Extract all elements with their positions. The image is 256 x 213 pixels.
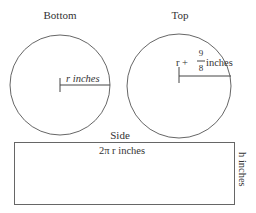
top-fraction-denominator: 8 [199, 63, 204, 73]
top-circle [127, 34, 231, 138]
bottom-radius-label: r inches [66, 73, 100, 84]
cylinder-net-diagram: Bottom r inches Top r + 9 8 inches Side … [0, 0, 256, 213]
top-radius-label-suffix: inches [206, 57, 233, 68]
side-rectangle-group: Side 2π r inches h inches [15, 129, 249, 205]
top-circle-group: Top r + 9 8 inches [127, 9, 233, 138]
bottom-circle-group: Bottom r inches [10, 9, 110, 135]
bottom-radius-label-text: r inches [66, 73, 100, 84]
top-radius-label-prefix: r + [176, 57, 188, 68]
side-width-label: 2π r inches [99, 145, 145, 156]
side-height-label: h inches [237, 152, 248, 187]
top-fraction-numerator: 9 [199, 48, 204, 58]
bottom-title: Bottom [43, 9, 76, 21]
side-title: Side [110, 129, 130, 141]
top-title: Top [172, 9, 189, 21]
